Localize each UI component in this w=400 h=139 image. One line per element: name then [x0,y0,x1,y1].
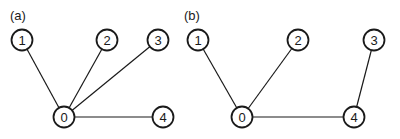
panel-a-node-2-label: 2 [103,33,110,48]
panel-a-node-0-label: 0 [60,110,67,125]
panel-b-edge-0-1 [198,40,242,117]
panel-b-node-1: 1 [188,30,209,51]
panel-b-node-4: 4 [344,107,365,128]
panel-a-node-3-label: 3 [154,33,161,48]
panel-a-edge-0-1 [22,40,64,117]
panel-b-node-2-label: 2 [294,33,301,48]
panel-b-node-4-label: 4 [350,110,357,125]
panel-b-edge-4-3 [354,40,374,117]
panel-a-node-1: 1 [12,30,33,51]
panel-b-node-0: 0 [232,107,253,128]
panel-b-node-3: 3 [364,30,385,51]
tree-diagrams: (a) (b) 01234 01234 [0,0,400,139]
panel-a-edge-0-3 [64,40,158,117]
panel-a-node-1-label: 1 [18,33,25,48]
panel-b-label: (b) [184,8,200,23]
panel-b-node-2: 2 [288,30,309,51]
panel-b-node-3-label: 3 [370,33,377,48]
panel-a-node-4-label: 4 [159,110,166,125]
panel-a-node-3: 3 [148,30,169,51]
panel-a-graph: 01234 [12,30,174,128]
panel-a-node-0: 0 [54,107,75,128]
panel-a-node-2: 2 [97,30,118,51]
panel-b-graph: 01234 [188,30,385,128]
panel-b-node-0-label: 0 [238,110,245,125]
panel-a-edge-0-2 [64,40,107,117]
panel-a-node-4: 4 [153,107,174,128]
panel-a-label: (a) [10,8,26,23]
panel-b-edge-0-2 [242,40,298,117]
panel-b-node-1-label: 1 [194,33,201,48]
